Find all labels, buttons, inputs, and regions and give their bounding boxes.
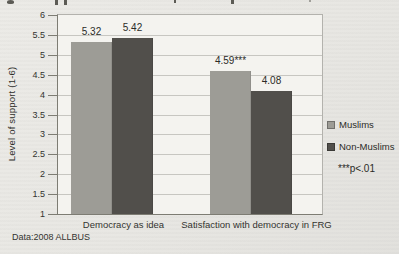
bar-non-muslims-0 (112, 38, 153, 214)
y-axis-tick-label: 5 (40, 50, 45, 60)
y-axis-tick-label: 4.5 (32, 70, 45, 80)
caption-fragment (231, 0, 234, 4)
y-axis-tick (48, 194, 57, 195)
y-axis-tick-label: 5.5 (32, 30, 45, 40)
y-axis-tick (48, 75, 57, 76)
y-axis-tick-label: 3.5 (32, 110, 45, 120)
legend-swatch-muslims (327, 121, 335, 129)
y-axis-tick-label: 1 (40, 209, 45, 219)
bar-value-label: 5.42 (123, 22, 142, 33)
y-axis-tick-label: 6 (40, 10, 45, 20)
scanned-page-background: Level of support (1-6) 65.554.543.532.52… (0, 0, 399, 254)
caption-fragment (64, 0, 67, 5)
bar-non-muslims-1 (251, 91, 292, 214)
caption-fragment (174, 0, 176, 3)
caption-fragment (55, 0, 58, 5)
bar-value-label: 4.08 (262, 75, 281, 86)
caption-fragment (309, 0, 311, 2)
y-axis-tick-label: 2 (40, 169, 45, 179)
x-axis-category-label: Satisfaction with democracy in FRG (181, 219, 331, 230)
y-axis-tick-label: 4 (40, 90, 45, 100)
legend-swatch-non-muslims (327, 143, 335, 151)
y-axis-tick (48, 55, 57, 56)
caption-fragment (7, 0, 14, 4)
y-axis-tick (48, 154, 57, 155)
legend: Muslims Non-Muslims (327, 119, 394, 163)
y-axis-tick (48, 134, 57, 135)
y-axis-tick (48, 95, 57, 96)
y-axis-tick (48, 35, 57, 36)
bar-value-label: 4.59*** (215, 55, 246, 66)
y-axis-ticks: 65.554.543.532.521.51 (0, 14, 57, 215)
y-axis-tick (48, 214, 57, 215)
legend-item-muslims: Muslims (327, 119, 394, 130)
legend-label-non-muslims: Non-Muslims (339, 141, 394, 152)
legend-item-non-muslims: Non-Muslims (327, 141, 394, 152)
legend-label-muslims: Muslims (339, 119, 374, 130)
significance-note: ***p<.01 (338, 163, 375, 174)
y-axis-tick (48, 15, 57, 16)
x-axis-category-label: Democracy as idea (83, 219, 164, 230)
y-axis-tick-label: 1.5 (32, 189, 45, 199)
x-axis-labels: Democracy as ideaSatisfaction with democ… (57, 219, 323, 233)
bar-value-label: 5.32 (82, 26, 101, 37)
bar-muslims-0 (71, 42, 112, 214)
data-source-note: Data:2008 ALLBUS (12, 232, 90, 242)
plot-area: 5.324.59***5.424.08 (57, 14, 323, 215)
y-axis-tick-label: 2.5 (32, 149, 45, 159)
y-axis-tick-label: 3 (40, 129, 45, 139)
y-axis-tick (48, 115, 57, 116)
bar-muslims-1 (210, 71, 251, 214)
y-axis-tick (48, 174, 57, 175)
